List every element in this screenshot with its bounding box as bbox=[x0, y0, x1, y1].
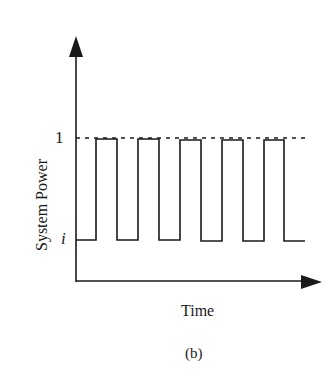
square-wave-signal bbox=[76, 139, 305, 241]
y-tick-low: i bbox=[61, 229, 66, 249]
y-tick-high: 1 bbox=[55, 128, 64, 148]
x-axis-label: Time bbox=[181, 302, 214, 320]
x-axis-arrow-icon bbox=[301, 275, 322, 289]
figure-caption: (b) bbox=[185, 345, 203, 362]
y-axis-label-text: System Power bbox=[33, 159, 51, 251]
y-axis-arrow-icon bbox=[69, 36, 83, 57]
